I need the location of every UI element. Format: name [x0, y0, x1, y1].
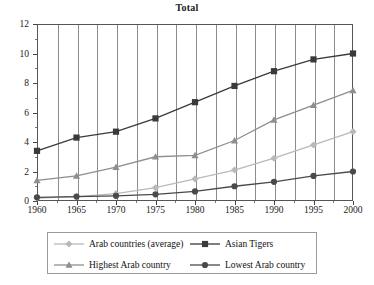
square-marker-icon [202, 240, 208, 246]
x-axis-tick-label: 1965 [57, 205, 97, 215]
x-axis-tick-label: 1990 [254, 205, 294, 215]
legend-row: Highest Arab countryLowest Arab country [48, 254, 318, 275]
legend-label: Asian Tigers [222, 239, 273, 249]
x-axis-tick-mark [353, 201, 354, 205]
chart-legend: Arab countries (average)Asian TigersHigh… [47, 232, 317, 274]
x-axis-minor-tick [294, 201, 295, 203]
legend-marker-diamond [52, 237, 86, 251]
legend-marker-square [188, 237, 222, 251]
x-axis-tick-mark [116, 201, 117, 205]
x-axis-tick-mark [314, 201, 315, 205]
x-axis-tick-mark [37, 201, 38, 205]
x-axis-minor-tick [96, 201, 97, 203]
legend-label: Arab countries (average) [86, 239, 183, 249]
x-axis-minor-tick [57, 201, 58, 203]
x-axis-minor-tick [333, 201, 334, 203]
diamond-marker-icon [65, 240, 72, 247]
x-axis-tick-label: 2000 [333, 205, 373, 215]
x-axis-tick-label: 1975 [136, 205, 176, 215]
legend-item[interactable]: Highest Arab country [52, 254, 171, 275]
legend-label: Lowest Arab country [222, 260, 305, 270]
x-axis-tick-label: 1960 [17, 205, 57, 215]
legend-label: Highest Arab country [86, 260, 171, 270]
x-axis-tick-label: 1980 [175, 205, 215, 215]
legend-item[interactable]: Arab countries (average) [52, 233, 183, 254]
legend-item[interactable]: Asian Tigers [188, 233, 273, 254]
x-axis-tick-mark [156, 201, 157, 205]
x-axis-tick-label: 1985 [215, 205, 255, 215]
legend-row: Arab countries (average)Asian Tigers [48, 233, 318, 254]
x-axis-minor-tick [136, 201, 137, 203]
x-axis-minor-tick [254, 201, 255, 203]
x-axis-tick-mark [274, 201, 275, 205]
x-axis-tick-mark [235, 201, 236, 205]
x-axis-tick-mark [77, 201, 78, 205]
x-axis-tick-label: 1970 [96, 205, 136, 215]
x-axis-minor-tick [175, 201, 176, 203]
legend-item[interactable]: Lowest Arab country [188, 254, 305, 275]
chart-figure: Total 024681012 196019651970197519801985… [0, 0, 374, 285]
legend-marker-triangle [52, 258, 86, 272]
legend-marker-circle [188, 258, 222, 272]
x-axis-minor-tick [215, 201, 216, 203]
x-axis-tick-mark [195, 201, 196, 205]
circle-marker-icon [202, 261, 208, 267]
x-axis-tick-label: 1995 [294, 205, 334, 215]
